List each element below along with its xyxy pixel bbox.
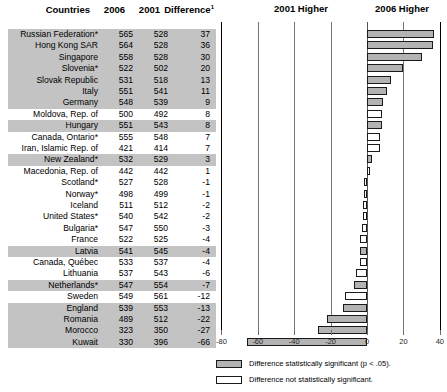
bar xyxy=(247,338,367,346)
gridline xyxy=(221,22,222,330)
label-2006-higher: 2006 Higher xyxy=(375,3,429,14)
bar xyxy=(345,292,367,300)
cell-difference: -4 xyxy=(202,234,210,245)
table-row: New Zealand*5325293 xyxy=(8,154,216,165)
table-row: Italy55154111 xyxy=(8,86,216,97)
cell-difference: 9 xyxy=(205,97,210,108)
cell-difference: 1 xyxy=(205,166,210,177)
cell-country: Scotland* xyxy=(61,177,98,188)
table-row: France522525-4 xyxy=(8,234,216,245)
cell-2001: 512 xyxy=(154,314,168,325)
bar xyxy=(367,76,391,84)
x-tick-label: -60 xyxy=(252,337,263,346)
cell-difference: -3 xyxy=(202,223,210,234)
bar xyxy=(364,178,367,186)
cell-difference: 7 xyxy=(205,143,210,154)
gridline xyxy=(440,22,441,330)
cell-2006: 527 xyxy=(119,177,133,188)
header-2001: 2001 xyxy=(139,4,160,15)
cell-2006: 522 xyxy=(119,234,133,245)
cell-2001: 553 xyxy=(154,303,168,314)
table-row: England539553-13 xyxy=(8,303,216,314)
bar xyxy=(367,98,383,106)
cell-difference: 8 xyxy=(205,120,210,131)
bar xyxy=(363,201,367,209)
cell-2006: 500 xyxy=(119,109,133,120)
cell-2001: 512 xyxy=(154,200,168,211)
table-row: Scotland*527528-1 xyxy=(8,177,216,188)
cell-country: Macedonia, Rep. of xyxy=(23,166,98,177)
cell-2001: 529 xyxy=(154,154,168,165)
cell-2001: 414 xyxy=(154,143,168,154)
bar xyxy=(360,247,367,255)
cell-2001: 539 xyxy=(154,97,168,108)
table-row: Kuwait330396-66 xyxy=(8,337,216,348)
cell-difference: 8 xyxy=(205,109,210,120)
table-row: Slovenia*52250220 xyxy=(8,63,216,74)
table-row: Netherlands*547554-7 xyxy=(8,280,216,291)
cell-2006: 533 xyxy=(119,257,133,268)
bar xyxy=(363,212,367,220)
cell-2006: 539 xyxy=(119,303,133,314)
cell-2001: 543 xyxy=(154,268,168,279)
cell-country: France xyxy=(71,234,98,245)
table-row: Morocco323350-27 xyxy=(8,325,216,336)
table-row: Moldova, Rep. of5004928 xyxy=(8,109,216,120)
header-difference: Difference1 xyxy=(164,4,214,15)
cell-2006: 531 xyxy=(119,75,133,86)
table-row: Bulgaria*547550-3 xyxy=(8,223,216,234)
cell-difference: -2 xyxy=(202,211,210,222)
cell-country: Kuwait xyxy=(72,337,98,348)
cell-2001: 502 xyxy=(154,63,168,74)
cell-country: Iceland xyxy=(70,200,98,211)
x-tick-label: 40 xyxy=(436,337,444,346)
cell-2006: 541 xyxy=(119,246,133,257)
cell-difference: -22 xyxy=(198,314,210,325)
bar xyxy=(318,326,367,334)
cell-country: Canada, Québec xyxy=(33,257,98,268)
gridline xyxy=(403,22,404,330)
cell-2001: 518 xyxy=(154,75,168,86)
cell-2001: 554 xyxy=(154,280,168,291)
cell-difference: -6 xyxy=(202,268,210,279)
cell-2006: 564 xyxy=(119,40,133,51)
cell-country: Slovenia* xyxy=(62,63,98,74)
cell-2001: 542 xyxy=(154,211,168,222)
bar xyxy=(367,121,382,129)
cell-difference: 30 xyxy=(200,52,210,63)
bar xyxy=(354,281,367,289)
x-tick-label: 20 xyxy=(399,337,407,346)
legend-swatch-significant xyxy=(216,360,242,368)
bar xyxy=(367,144,380,152)
cell-country: Morocco xyxy=(65,325,98,336)
cell-2001: 541 xyxy=(154,86,168,97)
bar xyxy=(360,235,367,243)
table-row: Macedonia, Rep. of4424421 xyxy=(8,166,216,177)
cell-country: Italy xyxy=(82,86,98,97)
bar xyxy=(343,304,367,312)
plot-frame xyxy=(216,22,447,330)
table-row: Norway*498499-1 xyxy=(8,189,216,200)
bar xyxy=(367,167,370,175)
bar xyxy=(327,315,367,323)
cell-country: Norway* xyxy=(66,189,98,200)
cell-2006: 489 xyxy=(119,314,133,325)
bar xyxy=(356,269,367,277)
header-difference-label: Difference xyxy=(164,4,210,15)
cell-difference: 11 xyxy=(201,86,210,97)
cell-country: Singapore xyxy=(59,52,98,63)
x-tick xyxy=(258,330,259,335)
table-row: Iran, Islamic Rep. of4214147 xyxy=(8,143,216,154)
x-tick-label: -20 xyxy=(325,337,336,346)
cell-country: Iran, Islamic Rep. of xyxy=(22,143,98,154)
cell-2006: 549 xyxy=(119,291,133,302)
legend-label-not-significant: Difference not statistically significant… xyxy=(249,375,373,384)
cell-difference: 20 xyxy=(200,63,210,74)
table-row: Hong Kong SAR56452836 xyxy=(8,40,216,51)
cell-country: New Zealand* xyxy=(44,154,98,165)
cell-2006: 421 xyxy=(119,143,133,154)
cell-2001: 350 xyxy=(154,325,168,336)
x-tick-label: 0 xyxy=(365,337,369,346)
cell-country: United States* xyxy=(43,211,98,222)
difference-chart: Countries 2006 2001 Difference1 Russian … xyxy=(0,0,447,392)
